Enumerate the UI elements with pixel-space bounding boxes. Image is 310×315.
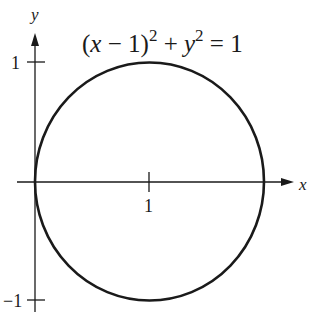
x-tick-label-1: 1	[144, 196, 153, 216]
equation-label: (x − 1)2 + y2 = 1	[82, 26, 243, 58]
y-tick-label-minus-1: −1	[3, 291, 22, 311]
x-axis-label: x	[298, 175, 307, 194]
y-tick-label-1: 1	[11, 53, 20, 73]
y-axis-arrow-icon	[31, 33, 39, 46]
circle-diagram: y x 1 −1 1 (x − 1)2 + y2 = 1	[0, 0, 310, 315]
x-axis-arrow-icon	[281, 178, 294, 186]
y-axis-label: y	[29, 5, 39, 24]
